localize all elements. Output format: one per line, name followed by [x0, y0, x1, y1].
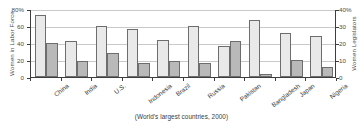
chart-caption: (World's largest countries, 2000): [0, 113, 363, 120]
bar-legislators: [199, 63, 211, 77]
bar-group: [184, 10, 215, 77]
bar-legislators: [291, 60, 303, 77]
x-tick-mark: [30, 78, 31, 81]
category-label: Brazil: [175, 82, 192, 97]
x-tick-mark: [336, 78, 337, 81]
bar-legislators: [77, 61, 89, 77]
bar-labor-force: [96, 26, 108, 77]
y-tick-label-left: 20: [0, 58, 24, 64]
category-label: Pakistan: [238, 82, 262, 103]
x-tick-mark: [305, 78, 306, 81]
x-tick-mark: [152, 78, 153, 81]
bar-group: [215, 10, 246, 77]
bar-labor-force: [249, 20, 261, 77]
bar-group: [276, 10, 307, 77]
category-label: Indonesia: [147, 82, 173, 105]
bar-legislators: [322, 67, 334, 77]
bar-legislators: [260, 74, 272, 77]
bar-group: [245, 10, 276, 77]
bar-group: [306, 10, 337, 77]
bar-labor-force: [35, 15, 47, 77]
chart-figure: Women in Labor Force Women Legislators 0…: [0, 0, 363, 128]
bar-labor-force: [218, 46, 230, 77]
bar-labor-force: [127, 29, 139, 77]
y-tick-label-right: 40%: [339, 7, 363, 13]
bar-group: [153, 10, 184, 77]
y-tick-label-right: 0: [339, 75, 363, 81]
x-tick-mark: [183, 78, 184, 81]
x-tick-mark: [91, 78, 92, 81]
bar-labor-force: [188, 26, 200, 77]
y-tick-label-right: 10: [339, 58, 363, 64]
x-tick-mark: [61, 78, 62, 81]
bar-group: [92, 10, 123, 77]
x-tick-mark: [214, 78, 215, 81]
bar-labor-force: [310, 36, 322, 77]
x-tick-mark: [275, 78, 276, 81]
category-label: Japan: [297, 82, 315, 98]
bar-legislators: [230, 41, 242, 77]
bar-labor-force: [65, 41, 77, 77]
y-tick-label-right: 20: [339, 41, 363, 47]
category-label: China: [53, 82, 70, 98]
plot-area: [30, 10, 336, 78]
bar-legislators: [138, 63, 150, 77]
x-tick-mark: [244, 78, 245, 81]
bar-group: [62, 10, 93, 77]
category-label: Bangladesh: [270, 82, 301, 108]
y-tick-label-left: 80%: [0, 7, 24, 13]
y-tick-label-left: 60: [0, 24, 24, 30]
bar-group: [31, 10, 62, 77]
y-tick-label-right: 30: [339, 24, 363, 30]
bar-group: [123, 10, 154, 77]
y-tick-label-left: 40: [0, 41, 24, 47]
category-label: Nigeria: [329, 82, 349, 100]
bar-legislators: [169, 61, 181, 77]
category-label: U.S.: [113, 82, 127, 95]
bar-labor-force: [280, 33, 292, 77]
bar-legislators: [107, 53, 119, 77]
bar-labor-force: [157, 40, 169, 77]
category-label: India: [83, 82, 98, 96]
category-label: Russia: [206, 82, 226, 100]
y-tick-label-left: 0: [0, 75, 24, 81]
bar-legislators: [46, 43, 58, 77]
